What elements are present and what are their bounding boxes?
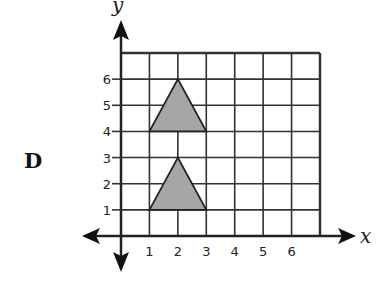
y-axis-label: y xyxy=(111,0,124,17)
x-tick-6: 6 xyxy=(287,244,295,259)
x-tick-3: 3 xyxy=(202,244,210,259)
y-tick-1: 1 xyxy=(103,203,111,218)
x-tick-labels: 123456 xyxy=(145,244,295,259)
x-tick-1: 1 xyxy=(145,244,153,259)
y-tick-6: 6 xyxy=(103,72,111,87)
y-tick-5: 5 xyxy=(103,98,111,113)
axes xyxy=(82,20,356,272)
coordinate-grid: x y 123456 123456 xyxy=(0,0,388,284)
y-tick-3: 3 xyxy=(103,151,111,166)
x-tick-2: 2 xyxy=(174,244,182,259)
x-axis-label: x xyxy=(360,224,371,248)
y-tick-labels: 123456 xyxy=(103,72,121,218)
x-tick-4: 4 xyxy=(231,244,239,259)
x-tick-5: 5 xyxy=(259,244,267,259)
y-tick-4: 4 xyxy=(103,124,111,139)
y-tick-2: 2 xyxy=(103,177,111,192)
